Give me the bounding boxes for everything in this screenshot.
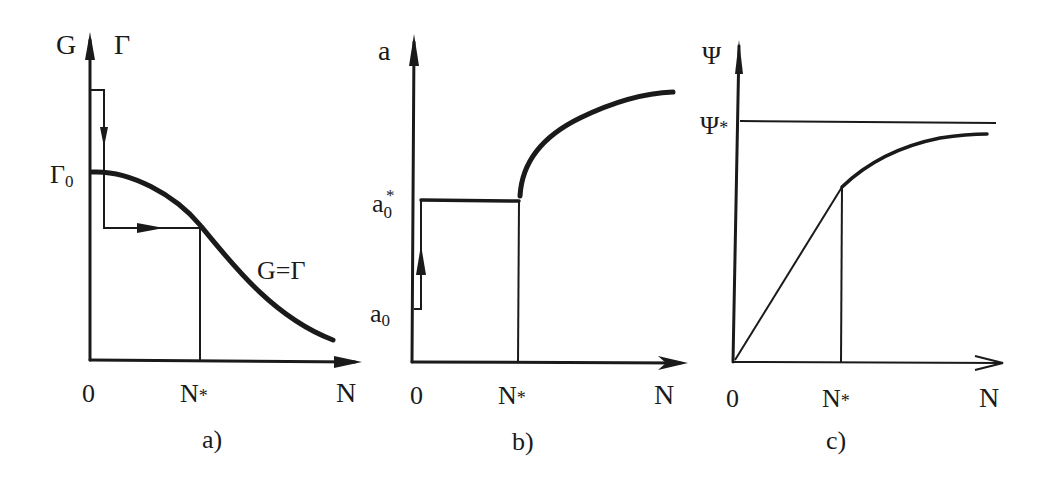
x-axis-label-n: N [336,377,356,408]
plateau-line [421,200,519,201]
psi-star-asymptote [740,121,996,123]
y-axis-arrow-icon [85,32,95,60]
x-axis-arrow-icon [334,356,362,368]
x-axis [733,362,1000,363]
x-axis [412,362,680,363]
n-star-label: N* [498,381,526,410]
caption-a: a) [202,425,222,454]
caption-b: b) [512,427,534,456]
y-axis-arrow-icon [735,40,743,74]
psi-star-label: Ψ* [700,111,728,140]
origin-label: 0 [410,381,423,410]
n-star-drop-line [518,201,519,363]
curve-label: G=Γ [257,256,305,285]
panel-b: a a0 * a0 0 N* N b) [370,34,688,456]
x-axis-label-n: N [979,382,999,413]
y-axis-label-a: a [378,35,391,66]
right-arrow-icon [137,223,164,233]
y-axis-label-psi: Ψ [702,41,722,70]
a0-star-superscript: * [386,186,395,205]
saturation-curve [842,134,987,187]
n-star-label: N* [180,379,208,408]
panel-a: G Γ Γ0 G=Γ 0 N* N a) [50,29,362,454]
origin-label: 0 [726,384,739,413]
y-axis-label-g: G [56,29,76,60]
origin-label: 0 [82,379,95,408]
up-arrow-icon [416,245,426,275]
gamma0-label: Γ0 [50,160,74,191]
y-axis [412,42,414,362]
y-axis-label-gamma: Γ [114,29,130,60]
x-axis [90,360,355,362]
n-star-label: N* [822,384,850,413]
x-axis-label-n: N [654,379,674,410]
down-arrow-icon [100,127,108,147]
linear-segment [735,187,842,360]
a0-label: a0 [370,299,390,330]
n-star-drop-line [841,187,842,363]
y-axis-arrow-icon [409,34,419,66]
a-growth-curve [520,92,673,196]
panel-c: Ψ Ψ* 0 N* N c) [700,40,1003,455]
figure: G Γ Γ0 G=Γ 0 N* N a) a a0 * a0 0 N* N b) [0,0,1059,499]
y-axis [733,46,739,362]
caption-c: c) [826,426,846,455]
